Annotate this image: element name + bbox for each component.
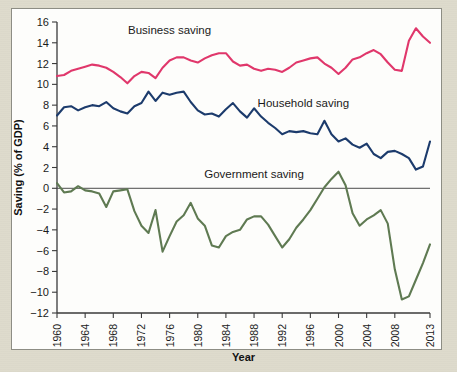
series-line-government-saving [57,172,430,300]
x-tick-label: 1992 [276,324,288,348]
x-tick-label: 1996 [304,324,316,348]
y-tick-label: 14 [37,37,49,49]
saving-line-chart: 1614121086420−2−4−6−8−10−121960196419681… [0,0,457,372]
y-tick-label: −10 [30,286,49,298]
y-tick-label: 4 [43,141,49,153]
y-tick-label: −12 [30,307,49,319]
chart-plot-area: 1614121086420−2−4−6−8−10−121960196419681… [0,0,457,372]
x-tick-label: 1988 [248,324,260,348]
annotation-household-saving: Household saving [258,97,349,109]
y-tick-label: −4 [36,224,49,236]
y-tick-label: 16 [37,16,49,28]
y-tick-label: 12 [37,58,49,70]
annotation-business-saving: Business saving [128,24,211,36]
y-tick-label: 0 [43,182,49,194]
x-tick-label: 1980 [192,324,204,348]
x-tick-label: 1976 [164,324,176,348]
y-tick-label: −6 [36,245,49,257]
series-line-household-saving [57,92,430,170]
y-tick-label: 2 [43,162,49,174]
annotation-government-saving: Government saving [204,168,304,180]
x-tick-label: 2000 [333,324,345,348]
x-tick-label: 2004 [361,324,373,348]
y-axis-title: Saving (% of GDP) [12,119,24,216]
figure-canvas: 1614121086420−2−4−6−8−10−121960196419681… [0,0,457,372]
x-tick-label: 2013 [424,324,436,348]
x-tick-label: 1968 [107,324,119,348]
x-axis-title: Year [232,351,256,363]
x-tick-label: 1964 [79,324,91,348]
x-tick-label: 1960 [51,324,63,348]
x-tick-label: 2008 [389,324,401,348]
y-tick-label: 8 [43,99,49,111]
y-tick-label: −2 [36,203,49,215]
y-tick-label: 10 [37,78,49,90]
series-line-business-saving [57,28,430,83]
x-tick-label: 1972 [135,324,147,348]
x-tick-label: 1984 [220,324,232,348]
y-tick-label: 6 [43,120,49,132]
y-tick-label: −8 [36,265,49,277]
